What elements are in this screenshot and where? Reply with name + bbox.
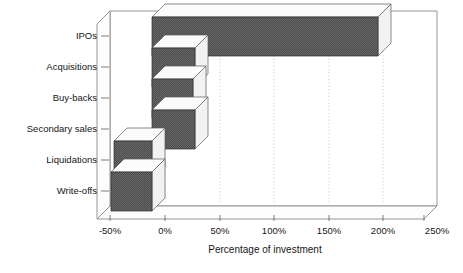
- category-label-buy-backs: Buy-backs: [53, 92, 98, 103]
- category-label-acquisitions: Acquisitions: [46, 61, 97, 72]
- category-label-secondary-sales: Secondary sales: [27, 123, 97, 134]
- category-label-liquidations: Liquidations: [46, 154, 97, 165]
- xtick-label-6: 250%: [425, 225, 450, 236]
- category-label-ipos: IPOs: [76, 30, 97, 41]
- chart-container: IPOs Acquisitions Buy-backs Secondary sa…: [0, 0, 463, 273]
- bar-write-offs: [111, 159, 165, 211]
- x-axis-title: Percentage of investment: [208, 244, 322, 255]
- xtick-label-0: -50%: [99, 225, 122, 236]
- category-label-write-offs: Write-offs: [57, 185, 98, 196]
- xtick-label-4: 150%: [317, 225, 342, 236]
- xtick-label-2: 50%: [210, 225, 230, 236]
- xtick-label-5: 200%: [371, 225, 396, 236]
- bar-chart-svg: IPOs Acquisitions Buy-backs Secondary sa…: [0, 0, 463, 273]
- xtick-label-1: 0%: [158, 225, 172, 236]
- category-labels: IPOs Acquisitions Buy-backs Secondary sa…: [27, 30, 97, 196]
- value-tick-labels: -50% 0% 50% 100% 150% 200% 250%: [99, 225, 450, 236]
- xtick-label-3: 100%: [262, 225, 287, 236]
